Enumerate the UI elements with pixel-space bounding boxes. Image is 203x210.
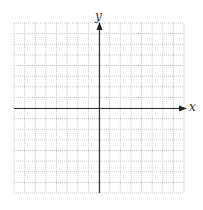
coordinate-grid [0, 0, 203, 210]
y-axis-label: y [95, 9, 102, 23]
x-axis-arrow-icon [179, 106, 187, 112]
x-axis-label: x [189, 100, 196, 114]
y-axis-arrow-icon [97, 22, 103, 30]
